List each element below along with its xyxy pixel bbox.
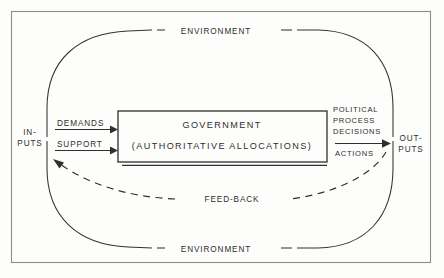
conversion-line-political: POLITICAL xyxy=(333,105,378,114)
feedback-curve-right xyxy=(290,152,386,199)
environment-top-label: ENVIRONMENT xyxy=(181,27,251,36)
inputs-label-line1: IN- xyxy=(23,128,37,137)
government-subtitle: (AUTHORITATIVE ALLOCATIONS) xyxy=(132,141,312,151)
environment-bottom-label: ENVIRONMENT xyxy=(181,245,251,254)
government-title: GOVERNMENT xyxy=(182,120,261,130)
feedback-arrowhead xyxy=(53,159,64,169)
demands-label: DEMANDS xyxy=(57,119,104,128)
systems-model-diagram: ENVIRONMENT ENVIRONMENT IN- PUTS DEMANDS… xyxy=(0,0,444,278)
diagram-canvas: ENVIRONMENT ENVIRONMENT IN- PUTS DEMANDS… xyxy=(0,0,444,278)
conversion-line-process: PROCESS xyxy=(333,116,375,125)
government-box xyxy=(118,111,327,162)
conversion-line-actions: ACTIONS xyxy=(335,149,374,158)
feedback-label: FEED-BACK xyxy=(205,195,260,204)
outputs-label-line2: PUTS xyxy=(398,145,423,154)
support-label: SUPPORT xyxy=(57,140,103,149)
inputs-label-line2: PUTS xyxy=(17,139,42,148)
conversion-line-decisions: DECISIONS xyxy=(333,127,381,136)
feedback-curve-left xyxy=(60,164,175,199)
outputs-arrowhead xyxy=(382,139,391,148)
outer-border xyxy=(12,12,431,263)
demands-arrowhead xyxy=(110,126,118,134)
outputs-label-line1: OUT- xyxy=(399,134,422,143)
support-arrowhead xyxy=(110,147,118,155)
